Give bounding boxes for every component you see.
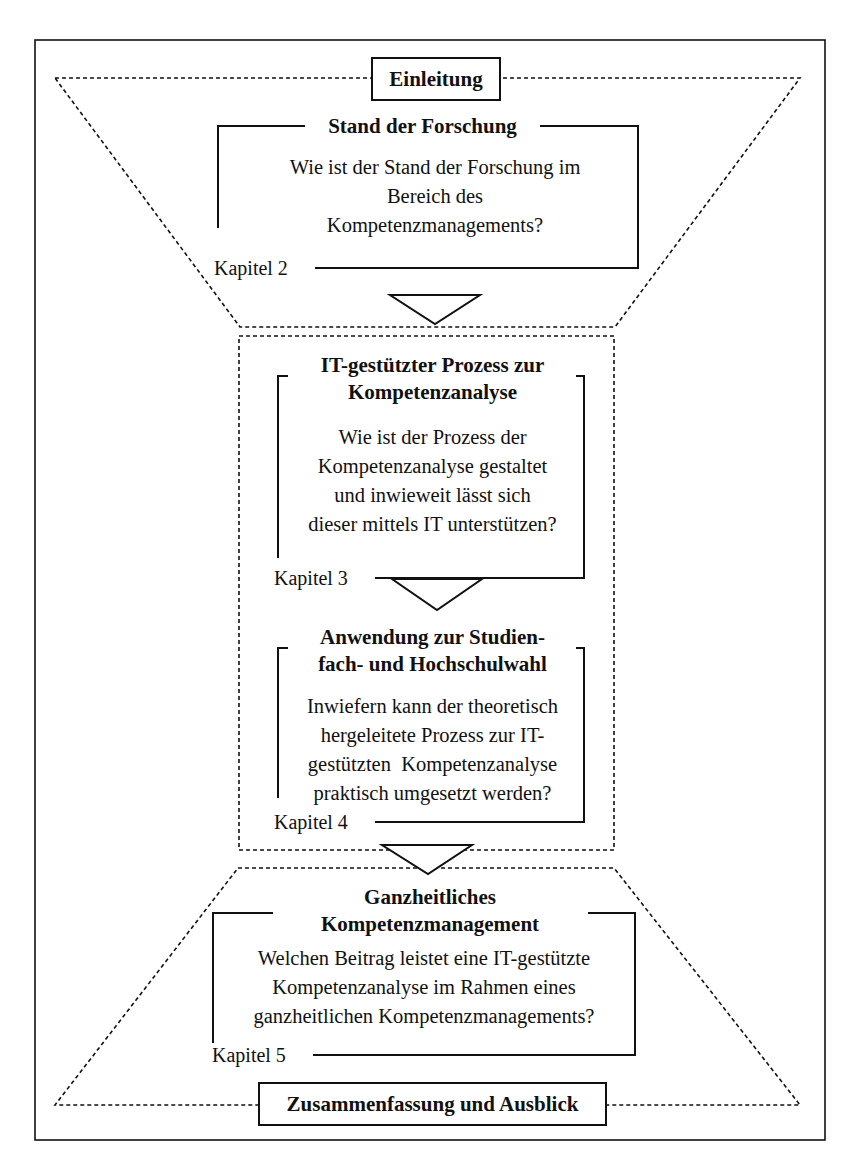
arrow-down-icon	[382, 845, 472, 874]
title-line: Ganzheitliches	[275, 884, 585, 911]
title-line: Kompetenzanalyse	[290, 379, 575, 406]
section-5-title: Ganzheitliches Kompetenzmanagement	[275, 884, 585, 938]
title-line: Stand der Forschung	[305, 113, 540, 140]
arrow-down-icon	[392, 579, 482, 610]
title-line: fach- und Hochschulwahl	[290, 651, 575, 678]
section-2-question: Wie ist der Stand der Forschung im Berei…	[250, 153, 620, 240]
section-4-title: Anwendung zur Studien- fach- und Hochsch…	[290, 624, 575, 678]
arrow-down-icon	[390, 295, 480, 324]
intro-label: Einleitung	[371, 57, 501, 101]
question-line: Kompetenzanalyse gestaltet	[285, 452, 580, 481]
section-4-question: Inwiefern kann der theoretisch hergeleit…	[285, 692, 580, 808]
question-line: Kompetenzanalyse im Rahmen eines	[215, 973, 633, 1002]
question-line: Wie ist der Stand der Forschung im	[250, 153, 620, 182]
question-line: hergeleitete Prozess zur IT-	[285, 721, 580, 750]
question-line: ganzheitlichen Kompetenzmanagements?	[215, 1002, 633, 1031]
chapter-label-2: Kapitel 2	[214, 256, 292, 280]
title-line: Anwendung zur Studien-	[290, 624, 575, 651]
question-line: gestützten Kompetenzanalyse	[285, 750, 580, 779]
section-3-title: IT-gestützter Prozess zur Kompetenzanaly…	[290, 352, 575, 406]
question-line: und inwieweit lässt sich	[285, 481, 580, 510]
question-line: Bereich des	[250, 182, 620, 211]
question-line: Inwiefern kann der theoretisch	[285, 692, 580, 721]
question-line: Kompetenzmanagements?	[250, 211, 620, 240]
question-line: Welchen Beitrag leistet eine IT-gestützt…	[215, 944, 633, 973]
section-5-question: Welchen Beitrag leistet eine IT-gestützt…	[215, 944, 633, 1031]
chapter-label-5: Kapitel 5	[212, 1043, 290, 1067]
chapter-label-3: Kapitel 3	[274, 566, 352, 590]
question-line: praktisch umgesetzt werden?	[285, 779, 580, 808]
title-line: Kompetenzmanagement	[275, 911, 585, 938]
title-line: IT-gestützter Prozess zur	[290, 352, 575, 379]
outro-label: Zusammenfassung und Ausblick	[258, 1082, 607, 1126]
section-2-title: Stand der Forschung	[305, 113, 540, 140]
question-line: dieser mittels IT unterstützen?	[285, 510, 580, 539]
section-3-question: Wie ist der Prozess der Kompetenzanalyse…	[285, 423, 580, 539]
question-line: Wie ist der Prozess der	[285, 423, 580, 452]
chapter-label-4: Kapitel 4	[274, 810, 352, 834]
